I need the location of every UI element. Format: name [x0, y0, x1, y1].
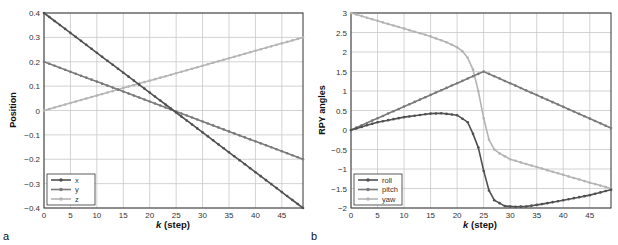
y-axis-label-position: Position [8, 92, 18, 128]
data-marker [296, 203, 299, 206]
data-marker [541, 96, 544, 99]
data-marker [567, 198, 570, 201]
data-marker [53, 106, 56, 109]
data-marker [504, 155, 507, 158]
data-marker [143, 81, 146, 84]
data-marker [281, 191, 284, 194]
data-marker [111, 90, 114, 93]
data-marker [275, 187, 278, 190]
data-marker [583, 180, 586, 183]
data-marker [133, 94, 136, 97]
data-marker [180, 70, 183, 73]
data-marker [286, 152, 289, 155]
data-marker [610, 188, 613, 191]
data-marker [185, 119, 188, 122]
y-tick-label: 2.5 [336, 29, 348, 38]
data-marker [355, 127, 358, 130]
data-marker [350, 129, 353, 132]
y-tick-label: −0.5 [331, 146, 347, 155]
panel-label-a: a [3, 230, 10, 242]
data-marker [573, 197, 576, 200]
data-marker [493, 199, 496, 202]
data-marker [85, 76, 88, 79]
y-tick-label: −0.2 [24, 155, 40, 164]
data-marker [392, 110, 395, 113]
data-marker [541, 167, 544, 170]
data-marker [488, 73, 491, 76]
data-marker [498, 152, 501, 155]
data-marker [164, 106, 167, 109]
data-marker [477, 90, 480, 93]
data-marker [90, 48, 93, 51]
data-marker [217, 143, 220, 146]
legend-label-pitch: pitch [382, 185, 398, 194]
data-marker [228, 130, 231, 133]
data-marker [371, 119, 374, 122]
data-marker [477, 73, 480, 76]
data-marker [397, 117, 400, 120]
data-marker [440, 39, 443, 42]
data-marker [254, 171, 257, 174]
data-marker [350, 12, 353, 15]
data-marker [291, 199, 294, 202]
data-marker [435, 112, 438, 115]
data-marker [143, 87, 146, 90]
data-marker [249, 167, 252, 170]
data-marker [159, 104, 162, 107]
data-marker [170, 107, 173, 110]
data-marker [557, 172, 560, 175]
data-marker [488, 189, 491, 192]
data-marker [59, 66, 62, 69]
data-marker [451, 84, 454, 87]
data-marker [466, 57, 469, 60]
data-marker [567, 108, 570, 111]
data-marker [249, 51, 252, 54]
data-marker [228, 151, 231, 154]
data-marker [270, 45, 273, 48]
data-marker [498, 202, 501, 205]
data-marker [562, 199, 565, 202]
y-tick-label: −2 [338, 204, 348, 213]
data-marker [456, 82, 459, 85]
y-tick-label: 3 [343, 9, 348, 18]
data-marker [535, 166, 538, 169]
data-marker [408, 29, 411, 32]
data-marker [604, 190, 607, 193]
data-marker [413, 30, 416, 33]
data-marker [435, 37, 438, 40]
data-marker [175, 111, 178, 114]
data-marker [583, 195, 586, 198]
data-marker [228, 57, 231, 60]
y-tick-label: 2 [343, 48, 348, 57]
data-marker [244, 52, 247, 55]
data-marker [201, 120, 204, 123]
data-marker [254, 50, 257, 53]
data-marker [180, 115, 183, 118]
data-marker [573, 110, 576, 113]
data-marker [96, 51, 99, 54]
data-marker [403, 105, 406, 108]
data-marker [244, 163, 247, 166]
y-tick-label: −1 [338, 165, 348, 174]
data-marker [127, 92, 130, 95]
data-marker [296, 156, 299, 159]
data-marker [106, 84, 109, 87]
data-marker [551, 101, 554, 104]
data-marker [90, 78, 93, 81]
y-axis-label-rpy: RPY angles [317, 85, 327, 134]
y-tick-label: −0.3 [24, 180, 40, 189]
data-marker [461, 50, 464, 53]
data-marker [101, 93, 104, 96]
data-marker [599, 191, 602, 194]
y-tick-label: −0.4 [24, 204, 40, 213]
data-marker [69, 102, 72, 105]
data-marker [117, 67, 120, 70]
data-marker [80, 40, 83, 43]
data-marker [451, 113, 454, 116]
x-tick-label: 40 [559, 211, 568, 220]
data-marker [461, 117, 464, 120]
y-tick-label: 0.3 [29, 33, 41, 42]
series-yaw [350, 12, 613, 190]
data-marker [519, 161, 522, 164]
data-marker [180, 112, 183, 115]
